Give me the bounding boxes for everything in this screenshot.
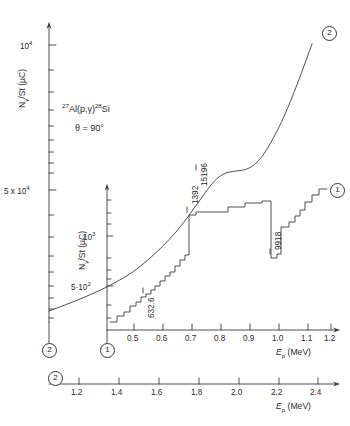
outer-y-tick-label-1e4: 104 (20, 40, 33, 51)
outer-y-axis-title: Nγ/St (µC) (18, 69, 30, 108)
peak-label-1392: 1392 (191, 186, 200, 204)
inner-x-axis-title: Ep (MeV) (276, 348, 311, 360)
peak-label-632: 632.6 (147, 298, 156, 319)
outer-y-axis-subscript: γ (22, 99, 29, 102)
peak-label-9918: 9918 (274, 232, 283, 250)
inner-axis-origin-marker: 1 (100, 343, 115, 358)
peak-label-15196: 15196 (200, 163, 209, 186)
reaction-mass-pre: 27 (62, 102, 69, 109)
outer-curve (49, 44, 312, 311)
reaction-mass-post: 28 (95, 102, 102, 109)
outer-x-tick-label-4: 2.0 (231, 388, 242, 397)
inner-x-tick-label-1: 0.6 (156, 334, 167, 343)
outer-bottom-axis-marker: 2 (48, 371, 63, 386)
outer-x-axis-title: Ep (MeV) (276, 402, 311, 414)
outer-x-tick-label-3: 1.8 (191, 388, 202, 397)
reaction-middle: Al(p,γ) (69, 104, 95, 114)
outer-x-tick-label-0: 1.2 (71, 388, 82, 397)
outer-x-tick-label-2: 1.6 (151, 388, 162, 397)
outer-curve-endpoint-marker: 2 (322, 26, 337, 41)
inner-x-tick-label-3: 0.8 (214, 334, 225, 343)
outer-y-tick-label-5e4: 5 x 104 (4, 185, 30, 196)
outer-x-tick-label-6: 2.4 (310, 388, 321, 397)
inner-curve-endpoint-marker: 1 (330, 183, 345, 198)
inner-x-tick-label-0: 0.5 (127, 334, 138, 343)
inner-y-tick-label-1e3: 103 (83, 231, 96, 242)
inner-step-curve (110, 189, 327, 322)
inner-x-tick-label-7: 1.2 (324, 334, 335, 343)
inner-x-tick-label-4: 0.9 (243, 334, 254, 343)
outer-x-tick-label-1: 1.4 (111, 388, 122, 397)
figure-canvas (0, 0, 350, 426)
inner-x-tick-label-5: 1.0 (272, 334, 283, 343)
reaction-product: Si (102, 104, 110, 114)
figure-excitation-function: Nγ/St (µC) 104 5 x 104 1.2 1.4 1.6 1.8 2… (0, 0, 350, 426)
outer-x-tick-label-5: 2.2 (271, 388, 282, 397)
inner-x-tick-label-2: 0.7 (185, 334, 196, 343)
angle-annotation: θ = 90° (75, 124, 104, 134)
reaction-annotation: 27Al(p,γ)28Si (62, 103, 110, 115)
inner-y-tick-label-5e2: 5·102 (71, 281, 91, 292)
inner-x-tick-label-6: 1.1 (301, 334, 312, 343)
outer-axis-origin-marker: 2 (42, 343, 57, 358)
